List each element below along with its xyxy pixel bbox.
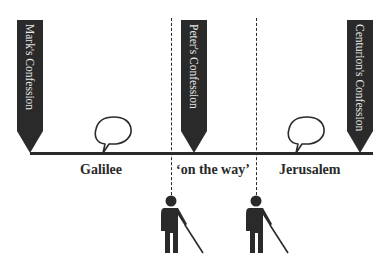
speech-bubble-icon [287, 116, 327, 154]
region-divider-left [171, 18, 172, 200]
marker-peters-confession: Peter's Confession [181, 20, 207, 153]
pencil-tip [181, 131, 207, 153]
blind-person-with-cane-icon [160, 195, 210, 255]
marker-marks-confession: Mark's Confession [17, 20, 43, 153]
speech-bubble-icon [94, 116, 134, 154]
blind-person-with-cane-icon [245, 195, 295, 255]
marker-label: Peter's Confession [187, 24, 201, 109]
region-label-galilee: Galilee [80, 162, 122, 178]
marker-label: Centurion's Confession [353, 24, 367, 131]
pencil-tip [347, 131, 373, 153]
marker-centurions-confession: Centurion's Confession [347, 20, 373, 153]
pencil-tip [17, 131, 43, 153]
marker-label: Mark's Confession [23, 24, 37, 110]
region-divider-right [256, 18, 257, 200]
region-label-on-the-way: ‘on the way’ [176, 162, 250, 178]
region-label-jerusalem: Jerusalem [279, 162, 340, 178]
